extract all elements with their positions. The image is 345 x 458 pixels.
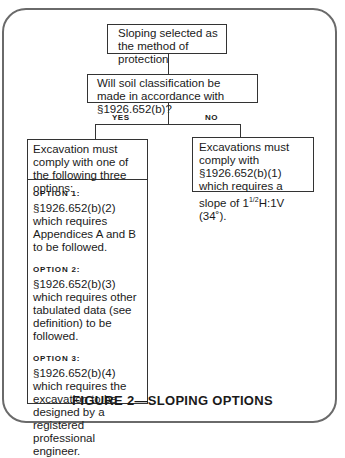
branch-line — [95, 124, 241, 125]
option-2: OPTION 2: §1926.652(b)(3) which requires… — [33, 263, 143, 343]
yes-header: Excavation must comply with one of the f… — [28, 140, 147, 180]
connector — [240, 124, 241, 137]
option-1: OPTION 1: §1926.652(b)(2) which requires… — [33, 187, 143, 254]
start-box: Sloping selected as the method of protec… — [107, 24, 227, 54]
connector — [95, 124, 96, 140]
no-label: NO — [205, 113, 218, 122]
figure-caption: FIGURE 2—SLOPING OPTIONS — [0, 393, 345, 408]
no-box: Excavations must comply with §1926.652(b… — [192, 137, 314, 192]
yes-label: YES — [112, 113, 130, 122]
connector — [168, 54, 169, 74]
yes-box: Excavation must comply with one of the f… — [27, 139, 148, 404]
connector — [168, 103, 169, 124]
question-box: Will soil classification be made in acco… — [87, 74, 258, 103]
